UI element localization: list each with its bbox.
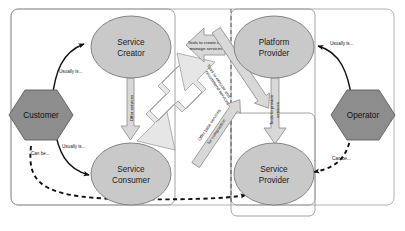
node-platform-provider-line1: Platform bbox=[259, 38, 290, 47]
node-service-provider-line2: Provider bbox=[259, 176, 290, 185]
label-customer-consumer: Usually is... bbox=[62, 144, 86, 149]
label-customer-provider: Can be... bbox=[31, 151, 50, 156]
actor-customer-label: Customer bbox=[23, 111, 59, 120]
node-service-consumer[interactable]: Service Consumer bbox=[91, 143, 171, 205]
label-tools-provide-line2: services bbox=[275, 102, 280, 118]
actor-operator-label: Operator bbox=[347, 111, 380, 120]
node-service-creator-line2: Creator bbox=[117, 49, 145, 58]
label-operator-platform: Usually is... bbox=[330, 41, 354, 46]
node-service-creator-line1: Service bbox=[117, 38, 145, 47]
label-operator-provider: Can be... bbox=[332, 156, 351, 161]
label-tools-create-line2: manage services bbox=[190, 46, 222, 51]
node-service-consumer-line2: Consumer bbox=[112, 176, 150, 185]
label-tools-provide-line1: Tools to provide bbox=[269, 94, 274, 125]
figure-canvas: Tools to create and manage services Offe… bbox=[0, 0, 405, 231]
node-service-provider-line1: Service bbox=[260, 165, 288, 174]
node-service-consumer-line1: Service bbox=[117, 165, 145, 174]
node-service-creator[interactable]: Service Creator bbox=[91, 16, 171, 78]
diagram-svg: Tools to create and manage services Offe… bbox=[0, 0, 405, 231]
node-service-provider[interactable]: Service Provider bbox=[234, 143, 314, 205]
node-platform-provider-line2: Provider bbox=[259, 49, 290, 58]
label-offer-services: Offer services bbox=[129, 95, 134, 121]
label-customer-creator: Usually is... bbox=[59, 69, 83, 74]
node-platform-provider[interactable]: Platform Provider bbox=[234, 16, 314, 78]
